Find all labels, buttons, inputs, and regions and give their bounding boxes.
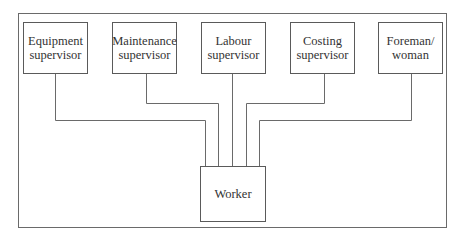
box-label-line2: supervisor — [296, 48, 348, 62]
box-label-line1: Equipment — [28, 34, 83, 48]
labour-supervisor-box: Labour supervisor — [201, 22, 266, 74]
edge-maintenance-worker — [147, 73, 219, 166]
box-label-line1: Maintenance — [112, 34, 177, 48]
box-label-line2: supervisor — [207, 48, 259, 62]
box-label-line2: supervisor — [112, 48, 177, 62]
worker-box: Worker — [200, 166, 266, 222]
box-label-line2: woman — [387, 48, 435, 62]
costing-supervisor-box: Costing supervisor — [290, 22, 355, 74]
edge-foreman-worker — [260, 73, 412, 166]
box-label-line1: Labour — [207, 34, 259, 48]
edge-costing-worker — [247, 73, 325, 166]
box-label-line1: Foreman/ — [387, 34, 435, 48]
worker-label: Worker — [214, 187, 251, 201]
edge-equipment-worker — [56, 73, 206, 166]
equipment-supervisor-box: Equipment supervisor — [23, 22, 88, 74]
box-label-line2: supervisor — [28, 48, 83, 62]
maintenance-supervisor-box: Maintenance supervisor — [112, 22, 177, 74]
box-label-line1: Costing — [296, 34, 348, 48]
foreman-box: Foreman/ woman — [378, 22, 443, 74]
